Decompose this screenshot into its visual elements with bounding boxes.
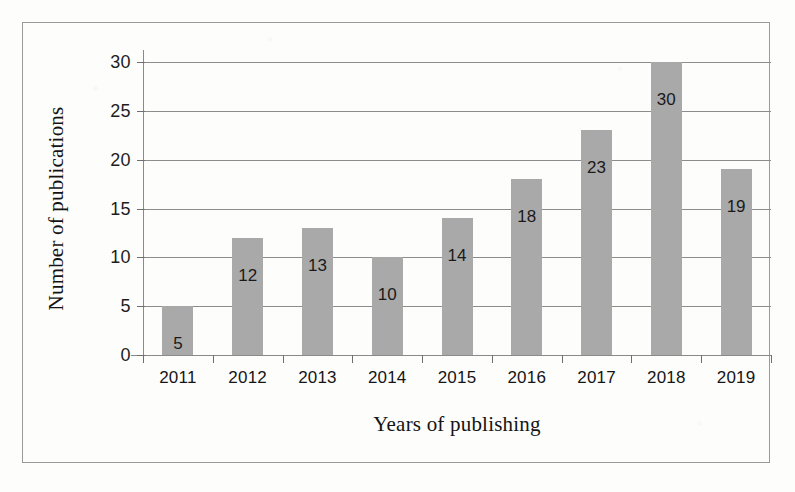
y-tick-label: 30 bbox=[91, 52, 131, 73]
y-tick-label: 5 bbox=[91, 296, 131, 317]
x-axis-line bbox=[131, 355, 772, 356]
y-axis-title: Number of publications bbox=[44, 62, 84, 355]
x-axis-title: Years of publishing bbox=[143, 412, 771, 437]
bar-data-label: 12 bbox=[238, 266, 257, 286]
x-category-label: 2018 bbox=[647, 368, 686, 388]
x-category-label: 2016 bbox=[507, 368, 546, 388]
x-tick-mark bbox=[771, 355, 772, 363]
x-tick-mark bbox=[631, 355, 632, 363]
chart-page: Number of publications 51213101418233019… bbox=[0, 0, 795, 492]
bar bbox=[372, 257, 403, 355]
x-tick-mark bbox=[213, 355, 214, 363]
bar bbox=[232, 238, 263, 355]
bar-data-label: 13 bbox=[308, 256, 327, 276]
x-category-label: 2017 bbox=[577, 368, 616, 388]
y-tick-label: 0 bbox=[91, 345, 131, 366]
x-category-label: 2013 bbox=[298, 368, 337, 388]
x-tick-mark bbox=[143, 355, 144, 363]
x-category-label: 2011 bbox=[159, 368, 196, 388]
y-tick-mark bbox=[137, 111, 145, 112]
bar-data-label: 18 bbox=[517, 207, 536, 227]
bar bbox=[511, 179, 542, 355]
bar bbox=[442, 218, 473, 355]
x-tick-mark bbox=[701, 355, 702, 363]
y-tick-mark bbox=[137, 62, 145, 63]
y-tick-mark bbox=[137, 306, 145, 307]
bar bbox=[302, 228, 333, 355]
bar-data-label: 10 bbox=[378, 285, 397, 305]
y-tick-label: 15 bbox=[91, 198, 131, 219]
x-category-label: 2012 bbox=[228, 368, 267, 388]
x-tick-mark bbox=[352, 355, 353, 363]
bar-data-label: 30 bbox=[657, 90, 676, 110]
y-tick-mark bbox=[137, 160, 145, 161]
x-category-label: 2015 bbox=[438, 368, 477, 388]
x-tick-mark bbox=[562, 355, 563, 363]
y-tick-label: 20 bbox=[91, 149, 131, 170]
bar-data-label: 19 bbox=[727, 197, 746, 217]
plot-area: 51213101418233019 bbox=[143, 62, 771, 355]
y-tick-mark bbox=[137, 257, 145, 258]
x-tick-mark bbox=[492, 355, 493, 363]
y-tick-label: 10 bbox=[91, 247, 131, 268]
x-category-label: 2014 bbox=[368, 368, 407, 388]
x-tick-mark bbox=[283, 355, 284, 363]
x-category-label: 2019 bbox=[717, 368, 756, 388]
y-tick-label: 25 bbox=[91, 100, 131, 121]
bar-data-label: 14 bbox=[448, 246, 467, 266]
y-tick-mark bbox=[137, 209, 145, 210]
bar-data-label: 5 bbox=[173, 334, 182, 354]
bar-data-label: 23 bbox=[587, 158, 606, 178]
x-tick-mark bbox=[422, 355, 423, 363]
